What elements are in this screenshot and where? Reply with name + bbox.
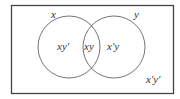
set-x-label: x [50,8,56,20]
region-only-x-label: xy' [56,40,70,52]
region-intersection-label: xy [83,40,94,52]
region-outside-label: x'y' [145,73,161,85]
venn-diagram: x y xy' xy x'y x'y' [0,0,180,99]
set-y-label: y [133,8,139,20]
region-only-y-label: x'y [106,40,119,52]
